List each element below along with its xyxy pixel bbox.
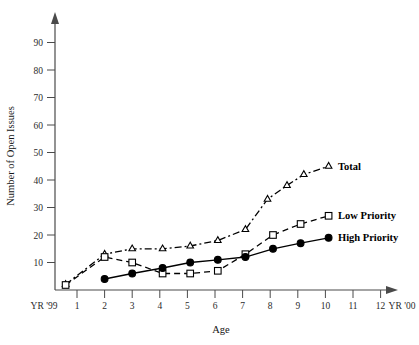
y-axis-arrow-icon [51, 12, 59, 24]
y-tick-label-50: 50 [34, 148, 44, 158]
chart-container: 90 80 70 60 50 40 30 20 10 1 2 3 [0, 0, 419, 345]
axes-group [51, 12, 398, 294]
high-priority-marker [297, 240, 304, 247]
y-tick-label-60: 60 [34, 121, 44, 131]
high-priority-marker [214, 256, 221, 263]
y-tick-label-10: 10 [34, 258, 44, 268]
low-priority-marker [325, 213, 332, 220]
y-axis-title: Number of Open Issues [5, 106, 16, 205]
line-chart-plot: 90 80 70 60 50 40 30 20 10 1 2 3 [0, 0, 419, 345]
x-tick-label-8: 8 [268, 301, 273, 311]
x-axis-ticks: 1 2 3 4 5 6 7 8 9 10 11 12 [75, 290, 386, 311]
series-label-low-priority: Low Priority [338, 210, 397, 221]
y-tick-label-70: 70 [34, 93, 44, 103]
x-tick-label-7: 7 [240, 301, 245, 311]
y-tick-label-90: 90 [34, 38, 44, 48]
high-priority-marker [159, 265, 166, 272]
high-priority-marker [270, 245, 277, 252]
low-priority-marker [187, 270, 194, 277]
y-tick-label-20: 20 [34, 231, 44, 241]
x-tick-label-12: 12 [376, 301, 386, 311]
x-tick-label-5: 5 [185, 301, 190, 311]
low-priority-marker [129, 259, 136, 266]
x-tick-label-1: 1 [75, 301, 80, 311]
low-priority-marker [101, 254, 108, 261]
high-priority-marker [129, 270, 136, 277]
total-marker [129, 245, 136, 251]
total-marker [325, 162, 332, 168]
low-priority-marker [270, 232, 277, 239]
x-tick-label-11: 11 [348, 301, 357, 311]
total-marker [301, 171, 308, 177]
x-tick-label-4: 4 [157, 301, 162, 311]
y-tick-label-40: 40 [34, 176, 44, 186]
x-axis-title: Age [212, 324, 230, 335]
y-tick-label-30: 30 [34, 203, 44, 213]
low-priority-marker [215, 268, 222, 275]
high-priority-marker [101, 276, 108, 283]
low-priority-marker [62, 282, 69, 289]
x-tick-label-6: 6 [213, 301, 218, 311]
x-axis-start-label: YR '99 [31, 301, 58, 311]
series-low-priority: Low Priority [62, 210, 396, 288]
total-marker [159, 245, 166, 251]
high-priority-marker [242, 254, 249, 261]
high-priority-marker [325, 234, 332, 241]
high-priority-marker [187, 259, 194, 266]
x-tick-label-9: 9 [295, 301, 300, 311]
low-priority-marker [297, 221, 304, 228]
series-label-total: Total [338, 161, 361, 172]
x-tick-label-3: 3 [130, 301, 135, 311]
series-high-priority: High Priority [101, 232, 399, 282]
x-tick-label-10: 10 [321, 301, 331, 311]
y-axis-ticks: 90 80 70 60 50 40 30 20 10 [34, 38, 56, 268]
series-label-high-priority: High Priority [338, 232, 399, 243]
series-total: Total [62, 161, 361, 287]
x-axis-end-label: YR '00 [389, 301, 416, 311]
total-line [66, 166, 329, 284]
total-marker [264, 195, 271, 201]
x-axis-arrow-icon [386, 286, 398, 294]
x-tick-label-2: 2 [102, 301, 107, 311]
y-tick-label-80: 80 [34, 66, 44, 76]
